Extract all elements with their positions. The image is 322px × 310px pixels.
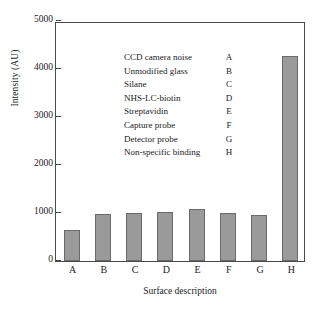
plot-area: 010002000300040005000 ABCDEFGH CCD camer…	[55, 22, 305, 262]
legend-item-description: Capture probe	[124, 119, 222, 133]
legend-item: StreptavidinE	[124, 105, 236, 119]
y-axis-tick-label: 1000	[34, 206, 53, 216]
y-axis-tick: 0	[56, 260, 61, 261]
x-axis-tick-label: H	[281, 264, 301, 275]
bar	[157, 212, 173, 261]
y-axis-tick-label: 2000	[34, 158, 53, 168]
bar	[251, 215, 267, 261]
legend-item-description: Non-specific binding	[124, 146, 222, 160]
legend-item-key: G	[222, 133, 236, 147]
legend-item: SilaneC	[124, 78, 236, 92]
legend-item-key: F	[222, 119, 236, 133]
y-axis-tick-label: 0	[48, 254, 53, 264]
legend-item-description: Silane	[124, 78, 222, 92]
legend-item: Capture probeF	[124, 119, 236, 133]
y-axis-tick: 3000	[56, 116, 61, 117]
legend-item: Non-specific bindingH	[124, 146, 236, 160]
legend-item-description: CCD camera noise	[124, 51, 222, 65]
legend-item-description: Unmodified glass	[124, 65, 222, 79]
x-axis-tick-label: C	[125, 264, 145, 275]
y-axis-tick-label: 3000	[34, 110, 53, 120]
bar-chart-figure: Intensity (AU) 010002000300040005000 ABC…	[0, 0, 322, 310]
x-axis-tick-label: D	[156, 264, 176, 275]
bar	[126, 213, 142, 261]
legend: CCD camera noiseAUnmodified glassBSilane…	[124, 51, 236, 160]
legend-item-key: B	[222, 65, 236, 79]
y-axis-tick-label: 4000	[34, 62, 53, 72]
legend-item: Unmodified glassB	[124, 65, 236, 79]
x-axis-tick-label: F	[219, 264, 239, 275]
y-axis-tick: 1000	[56, 212, 61, 213]
bar	[189, 209, 205, 261]
legend-item-description: Detector probe	[124, 133, 222, 147]
legend-item-key: D	[222, 92, 236, 106]
x-axis-tick-label: E	[188, 264, 208, 275]
bar	[64, 230, 80, 261]
x-axis-tick-label: G	[250, 264, 270, 275]
legend-item: Detector probeG	[124, 133, 236, 147]
y-axis-tick: 4000	[56, 68, 61, 69]
legend-item-description: NHS-LC-biotin	[124, 92, 222, 106]
legend-item-key: C	[222, 78, 236, 92]
y-axis-title: Intensity (AU)	[10, 28, 20, 128]
legend-item-description: Streptavidin	[124, 105, 222, 119]
x-axis-tick-label: B	[94, 264, 114, 275]
y-axis-tick: 2000	[56, 164, 61, 165]
bar	[95, 214, 111, 261]
y-axis-tick-label: 5000	[34, 14, 53, 24]
legend-item: NHS-LC-biotinD	[124, 92, 236, 106]
bar	[282, 56, 298, 261]
legend-item-key: H	[222, 146, 236, 160]
legend-item: CCD camera noiseA	[124, 51, 236, 65]
legend-item-key: A	[222, 51, 236, 65]
bar	[220, 213, 236, 261]
x-axis-tick-label: A	[63, 264, 83, 275]
x-axis-title: Surface description	[55, 286, 305, 296]
legend-item-key: E	[222, 105, 236, 119]
y-axis-tick: 5000	[56, 20, 61, 21]
